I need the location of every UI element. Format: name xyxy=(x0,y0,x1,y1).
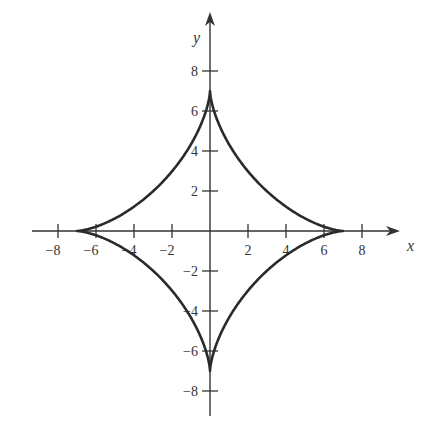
x-axis-label: x xyxy=(406,237,414,254)
y-axis-label: y xyxy=(191,29,201,47)
y-tick-label: 2 xyxy=(191,184,198,199)
y-tick-label: −6 xyxy=(183,344,198,359)
x-tick-label: 8 xyxy=(359,243,366,258)
y-tick-label: 8 xyxy=(191,64,198,79)
y-tick-label: 6 xyxy=(191,104,198,119)
x-tick-label: 6 xyxy=(321,243,328,258)
x-tick-label: −6 xyxy=(84,243,99,258)
y-tick-label: 4 xyxy=(191,144,198,159)
astroid-plot: −8−6−4−22468−8−6−4−22468xy xyxy=(0,0,426,441)
x-tick-label: 2 xyxy=(245,243,252,258)
y-tick-label: −8 xyxy=(183,384,198,399)
y-tick-label: −2 xyxy=(183,264,198,279)
x-tick-label: −8 xyxy=(46,243,61,258)
x-tick-label: −2 xyxy=(160,243,175,258)
